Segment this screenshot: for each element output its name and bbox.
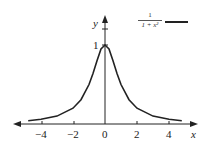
y-axis [102, 15, 108, 124]
legend-line-swatch [165, 21, 188, 23]
legend: 1 1 + x² [138, 12, 200, 36]
legend-numerator: 1 [138, 12, 162, 21]
x-tick-label-neg4: −4 [35, 129, 47, 140]
legend-formula: 1 1 + x² [138, 12, 162, 29]
x-axis-label: x [191, 129, 196, 140]
x-tick-label-4: 4 [166, 129, 172, 140]
legend-denominator: 1 + x² [138, 21, 162, 29]
x-tick-label-neg2: −2 [67, 129, 79, 140]
x-tick-label-0: 0 [102, 129, 108, 140]
y-tick-label-1: 1 [93, 40, 99, 51]
y-axis-label: y [93, 18, 98, 29]
x-tick-label-2: 2 [134, 129, 140, 140]
